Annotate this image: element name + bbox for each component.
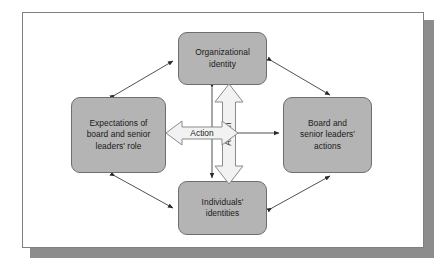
diagram-content: Organizational identity Expectations of … [0, 0, 443, 266]
figure-canvas: Organizational identity Expectations of … [0, 0, 443, 266]
block-arrow-layer: Action Action [0, 0, 443, 266]
action-arrow-horizontal[interactable]: Action [166, 121, 238, 145]
action-arrow-horizontal-label: Action [190, 128, 214, 138]
